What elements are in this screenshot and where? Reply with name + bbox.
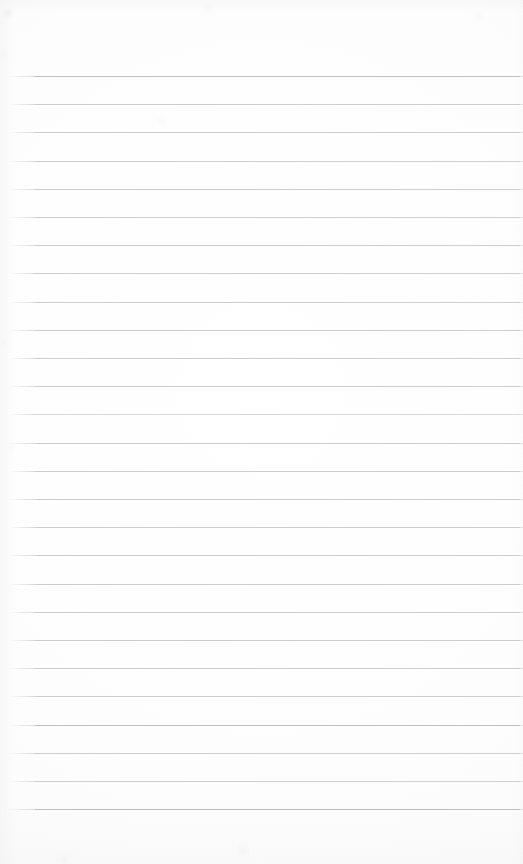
rule-line [35,443,520,444]
rule-line [35,161,520,162]
rule-line [35,273,520,274]
rule-line [35,132,520,133]
ruled-lines-layer [0,0,523,864]
rule-line [35,584,520,585]
rule-line [35,668,520,669]
rule-line [35,725,520,726]
rule-line [35,414,520,415]
rule-line [35,781,520,782]
rule-line [35,612,520,613]
rule-line [35,499,520,500]
rule-line [35,189,520,190]
rule-line [35,386,520,387]
rule-line [35,555,520,556]
lined-paper-page [0,0,523,864]
rule-line [35,302,520,303]
rule-line [35,104,520,105]
rule-line [35,753,520,754]
rule-line [35,696,520,697]
rule-line [35,527,520,528]
rule-line [35,217,520,218]
rule-line [35,358,520,359]
rule-line [35,471,520,472]
rule-line [35,640,520,641]
rule-line [35,245,520,246]
rule-line [35,330,520,331]
rule-line [35,809,520,810]
rule-line [35,76,520,77]
